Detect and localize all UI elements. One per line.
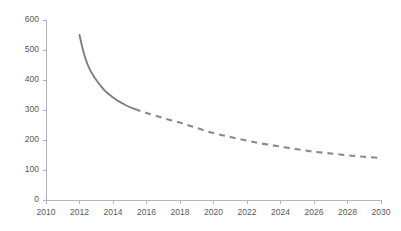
series-line-projection — [135, 109, 381, 158]
y-tick-labels: 0100200300400500600 — [25, 14, 39, 204]
x-tick-labels: 2010201220142016201820202022202420262028… — [37, 207, 391, 217]
data-series-group — [80, 35, 382, 158]
x-tick-label: 2020 — [204, 207, 223, 217]
y-tick-label: 300 — [25, 104, 39, 114]
y-tick-label: 100 — [25, 164, 39, 174]
x-tick-label: 2028 — [338, 207, 357, 217]
series-line-historical — [80, 35, 135, 109]
x-tick-label: 2022 — [238, 207, 257, 217]
y-tick-label: 0 — [34, 194, 39, 204]
y-tick-label: 200 — [25, 134, 39, 144]
x-tick-label: 2018 — [171, 207, 190, 217]
y-tick-label: 400 — [25, 74, 39, 84]
x-axis — [46, 200, 381, 204]
x-tick-label: 2030 — [372, 207, 391, 217]
x-tick-label: 2016 — [137, 207, 156, 217]
x-tick-label: 2026 — [305, 207, 324, 217]
x-tick-label: 2014 — [104, 207, 123, 217]
x-tick-label: 2024 — [271, 207, 290, 217]
x-tick-label: 2012 — [70, 207, 89, 217]
chart-container: 0100200300400500600 20102012201420162018… — [0, 0, 401, 231]
y-axis — [43, 20, 46, 200]
x-tick-label: 2010 — [37, 207, 56, 217]
line-chart: 0100200300400500600 20102012201420162018… — [0, 0, 401, 231]
y-tick-label: 500 — [25, 44, 39, 54]
y-tick-label: 600 — [25, 14, 39, 24]
